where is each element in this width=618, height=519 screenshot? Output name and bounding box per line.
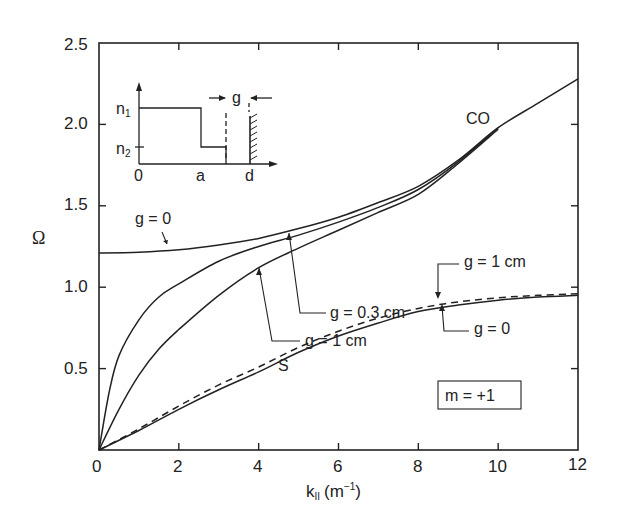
x-axis-title: kII(m−1) xyxy=(306,481,361,502)
x-tick-8: 8 xyxy=(413,457,422,476)
y-tick-2.5: 2.5 xyxy=(64,35,88,54)
annotation-g1-lower: g = 1 cm xyxy=(464,253,526,270)
inset-n2: n2 xyxy=(116,140,131,159)
x-tick-2: 2 xyxy=(173,457,182,476)
annotation-g0-upper: g = 0 xyxy=(135,210,171,227)
svg-text:kII(m−1): kII(m−1) xyxy=(306,481,361,502)
y-tick-1.5: 1.5 xyxy=(64,195,88,214)
mode-label: m = +1 xyxy=(445,387,495,404)
annotation-g0-lower: g = 0 xyxy=(474,320,510,337)
co-label: CO xyxy=(466,110,490,127)
inset-density-profile xyxy=(135,82,278,167)
inset-xd: d xyxy=(245,167,254,184)
x-tick-12: 12 xyxy=(568,455,587,474)
x-tick-4: 4 xyxy=(253,457,262,476)
x-axis-sub: II xyxy=(315,491,321,502)
s-label: S xyxy=(278,357,289,374)
annotation-g03: g = 0.3 cm xyxy=(330,304,405,321)
x-axis-unit-open: (m xyxy=(324,482,344,501)
y-tick-2.0: 2.0 xyxy=(64,114,88,133)
y-axis-title: Ω xyxy=(32,228,45,248)
plot-frame xyxy=(99,43,578,450)
dispersion-chart: 0 2 4 6 8 10 12 0.5 1.0 1.5 2.0 2.5 Ω kI… xyxy=(0,0,618,519)
x-tick-6: 6 xyxy=(333,457,342,476)
inset-x0: 0 xyxy=(134,167,143,184)
y-tick-labels: 0.5 1.0 1.5 2.0 2.5 xyxy=(64,35,88,378)
inset-xa: a xyxy=(196,167,205,184)
axis-ticks xyxy=(99,43,578,450)
x-tick-10: 10 xyxy=(488,457,507,476)
x-tick-0: 0 xyxy=(92,457,101,476)
x-tick-labels: 0 2 4 6 8 10 12 xyxy=(92,455,587,476)
inset-gap: g xyxy=(232,89,241,106)
x-axis-unit-sup: −1 xyxy=(344,481,356,492)
annotation-g1-upper: g = 1 cm xyxy=(305,332,367,349)
inset-n1: n1 xyxy=(116,100,131,119)
y-tick-0.5: 0.5 xyxy=(64,359,88,378)
y-tick-1.0: 1.0 xyxy=(64,277,88,296)
x-axis-unit-close: ) xyxy=(355,482,361,501)
